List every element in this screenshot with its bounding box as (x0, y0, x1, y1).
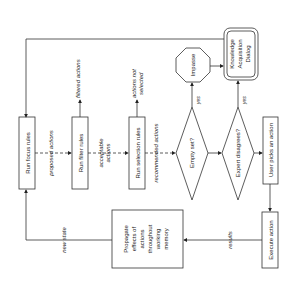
svg-text:actions: actions (105, 143, 111, 162)
svg-text:User picks an action: User picks an action (268, 123, 274, 177)
svg-text:selected: selected (138, 72, 144, 95)
svg-text:Dialog: Dialog (245, 45, 251, 62)
svg-text:effects of: effects of (131, 227, 137, 252)
svg-text:Empty set?: Empty set? (189, 137, 195, 168)
svg-text:proposed actions: proposed actions (48, 130, 54, 177)
svg-text:acceptable: acceptable (98, 138, 104, 168)
svg-text:Expert disagrees?: Expert disagrees? (235, 128, 241, 177)
svg-text:Run focus rules: Run focus rules (25, 132, 31, 174)
svg-text:yes: yes (195, 96, 201, 105)
edge-kad-to-focus (26, 39, 224, 117)
edge-new-state (26, 190, 112, 240)
svg-text:throughout: throughout (147, 224, 153, 253)
svg-text:Knowledge: Knowledge (229, 38, 235, 68)
svg-text:memory: memory (163, 228, 169, 250)
svg-text:actions: actions (139, 229, 145, 248)
flowchart: Run focus rules Run filter rules Run sel… (0, 0, 301, 288)
svg-text:results: results (227, 231, 233, 249)
svg-text:Run filter rules: Run filter rules (78, 134, 84, 173)
svg-text:Acquisition: Acquisition (237, 39, 243, 68)
svg-text:Propagate: Propagate (123, 225, 129, 253)
svg-text:working: working (155, 229, 161, 251)
svg-text:yes: yes (241, 96, 247, 105)
svg-text:filtered actions: filtered actions (75, 59, 81, 98)
svg-text:actions not: actions not (131, 69, 137, 98)
svg-text:Impasse: Impasse (190, 53, 196, 76)
svg-text:Execute action: Execute action (268, 220, 274, 259)
svg-text:recommended actions: recommended actions (153, 123, 159, 182)
svg-text:new state: new state (61, 226, 67, 252)
svg-text:Run selection rules: Run selection rules (135, 127, 141, 178)
